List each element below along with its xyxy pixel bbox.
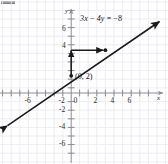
x-tick-label-neg2: -2 bbox=[59, 97, 65, 105]
y-tick-label-neg6: -6 bbox=[59, 140, 65, 148]
equation-label: 3x−4y=−8 bbox=[80, 15, 122, 23]
y-tick-label-4: 4 bbox=[62, 42, 66, 50]
point-second bbox=[104, 48, 108, 52]
equation-rhs: −8 bbox=[113, 14, 122, 23]
y-tick-label-6: 6 bbox=[62, 25, 66, 33]
x-tick-label-0: 0 bbox=[74, 97, 78, 105]
point-label-y-intercept: (0, 2) bbox=[75, 73, 92, 81]
equation-term1: 3x bbox=[80, 14, 88, 23]
coordinate-plane-svg bbox=[0, 0, 168, 164]
y-axis-label: y bbox=[65, 8, 68, 15]
equation-operator: − bbox=[90, 14, 95, 23]
point-y-intercept bbox=[69, 74, 73, 78]
y-tick-label-neg2: -2 bbox=[59, 106, 65, 114]
x-axis-label: x bbox=[157, 95, 160, 102]
x-tick-label-2: 2 bbox=[94, 97, 98, 105]
x-tick-label-6: 6 bbox=[128, 97, 132, 105]
equation-equals: = bbox=[107, 14, 112, 23]
equation-term2: 4y bbox=[97, 14, 105, 23]
x-tick-label-neg6: -6 bbox=[25, 97, 31, 105]
grid-lines bbox=[0, 0, 168, 164]
x-tick-label-4: 4 bbox=[111, 97, 115, 105]
graph-figure: -6 -2 0 2 4 6 6 4 -2 -4 -6 y x 3x−4y=−8 … bbox=[0, 0, 168, 164]
y-tick-label-neg4: -4 bbox=[59, 123, 65, 131]
